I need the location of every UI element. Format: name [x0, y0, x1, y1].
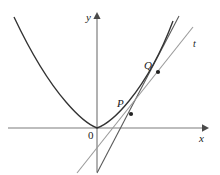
y-axis-arrow-icon: [93, 12, 100, 19]
x-axis-label: x: [199, 133, 204, 144]
y-axis-label: y: [86, 12, 91, 23]
tangent-line-t: [77, 27, 193, 173]
point-q-marker: [156, 70, 160, 74]
tangent-line-label: t: [193, 39, 196, 49]
x-axis: [8, 124, 209, 132]
point-p-label: P: [117, 98, 124, 109]
secant-line-pq: [97, 16, 179, 173]
x-axis-arrow-icon: [202, 124, 209, 132]
parabola-curve: [14, 17, 173, 128]
parabola-tangent-figure: y x 0 P Q t: [0, 0, 220, 175]
point-q-label: Q: [144, 60, 152, 71]
figure-canvas: [0, 0, 220, 175]
point-p-marker: [129, 112, 133, 116]
origin-label: 0: [88, 130, 94, 141]
